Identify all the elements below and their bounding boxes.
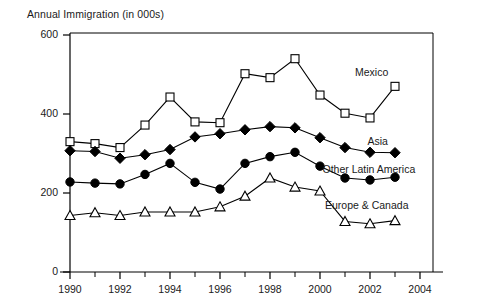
marker-open-square [291, 55, 299, 63]
marker-open-triangle [390, 216, 400, 225]
marker-filled-circle [291, 148, 299, 156]
y-tick-label: 600 [24, 28, 58, 40]
marker-filled-diamond [215, 129, 225, 139]
marker-filled-circle [66, 178, 74, 186]
marker-open-square [166, 93, 174, 101]
marker-filled-diamond [140, 149, 150, 159]
marker-filled-circle [116, 180, 124, 188]
series-line [70, 127, 395, 159]
marker-open-square [216, 119, 224, 127]
x-tick-label: 1996 [199, 283, 241, 295]
immigration-line-chart: Annual Immigration (in 000s) 0200400600 … [0, 0, 477, 304]
marker-open-square [266, 74, 274, 82]
x-tick-label: 2000 [299, 283, 341, 295]
x-tick-label: 1990 [49, 283, 91, 295]
x-tick-label: 1994 [149, 283, 191, 295]
marker-filled-circle [166, 159, 174, 167]
marker-filled-diamond [115, 153, 125, 163]
marker-open-square [366, 114, 374, 122]
x-tick-label: 1998 [249, 283, 291, 295]
marker-open-square [391, 82, 399, 90]
marker-open-square [116, 144, 124, 152]
series-label: Asia [368, 135, 388, 147]
marker-open-square [191, 118, 199, 126]
marker-filled-circle [191, 178, 199, 186]
marker-filled-circle [241, 159, 249, 167]
marker-open-square [341, 109, 349, 117]
marker-filled-diamond [165, 144, 175, 154]
y-tick-label: 0 [24, 265, 58, 277]
marker-filled-diamond [265, 121, 275, 131]
marker-open-triangle [215, 202, 225, 211]
marker-filled-circle [366, 176, 374, 184]
marker-filled-diamond [365, 147, 375, 157]
marker-filled-diamond [390, 148, 400, 158]
marker-open-triangle [90, 208, 100, 217]
marker-open-triangle [265, 173, 275, 182]
plot-canvas [0, 0, 477, 304]
series-label: Other Latin America [323, 163, 416, 175]
marker-open-triangle [290, 182, 300, 191]
marker-filled-diamond [315, 133, 325, 143]
x-tick-label: 1992 [99, 283, 141, 295]
marker-open-square [141, 121, 149, 129]
marker-filled-circle [141, 170, 149, 178]
marker-filled-diamond [340, 142, 350, 152]
series-line [70, 59, 395, 148]
marker-open-square [66, 138, 74, 146]
marker-filled-circle [91, 179, 99, 187]
marker-filled-diamond [190, 132, 200, 142]
marker-filled-diamond [65, 146, 75, 156]
marker-filled-circle [266, 152, 274, 160]
marker-filled-circle [216, 185, 224, 193]
marker-open-square [316, 91, 324, 99]
marker-open-square [241, 70, 249, 78]
y-tick-label: 400 [24, 107, 58, 119]
marker-filled-diamond [290, 123, 300, 133]
x-tick-label: 2004 [399, 283, 441, 295]
y-tick-label: 200 [24, 186, 58, 198]
series-label: Europe & Canada [325, 199, 408, 211]
series-label: Mexico [355, 66, 388, 78]
series-markers [66, 55, 399, 152]
x-tick-label: 2002 [349, 283, 391, 295]
marker-open-triangle [240, 191, 250, 200]
marker-filled-diamond [240, 125, 250, 135]
